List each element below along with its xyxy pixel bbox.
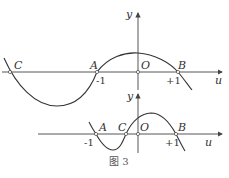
top-tick-plus1: +1 — [166, 75, 181, 86]
top-label-c: C — [14, 59, 23, 72]
top-label-a: A — [89, 59, 98, 72]
bottom-point-a — [94, 132, 97, 135]
figure-3: y u O C A B -1 +1 y u O A C B -1 +1 图 3 — [0, 0, 229, 178]
top-point-o — [136, 70, 139, 73]
bottom-tick-minus1: -1 — [84, 137, 94, 148]
top-tick-minus1: -1 — [96, 75, 106, 86]
top-graph: y u O C A B -1 +1 — [2, 8, 222, 106]
bottom-label-a: A — [98, 121, 107, 134]
top-y-label: y — [125, 8, 133, 21]
top-origin-label: O — [141, 59, 150, 72]
bottom-label-c: C — [118, 121, 127, 134]
top-label-b: B — [177, 59, 186, 72]
top-u-label: u — [215, 74, 222, 87]
bottom-u-label: u — [205, 136, 212, 149]
bottom-label-b: B — [177, 121, 186, 134]
bottom-origin-label: O — [140, 121, 149, 134]
bottom-tick-plus1: +1 — [165, 137, 180, 148]
top-point-c — [8, 70, 11, 73]
bottom-graph: y u O A C B -1 +1 — [38, 90, 222, 153]
figure-caption: 图 3 — [109, 156, 129, 167]
bottom-y-label: y — [126, 90, 134, 103]
